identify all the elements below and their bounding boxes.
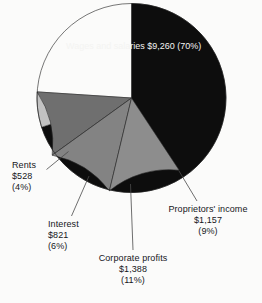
slice-label-proprietors-income: Proprietors' income $1,157 (9%) [156, 204, 260, 237]
leader-line-interest [72, 176, 90, 216]
leader-line-corporate-profits [131, 184, 134, 250]
slice-label-value: $1,157 [156, 215, 260, 226]
slice-label-name: Rents [12, 160, 36, 171]
slice-label-percent: (11%) [78, 275, 188, 286]
slice-label-name: Proprietors' income [156, 204, 260, 215]
slice-label-interest: Interest $821 (6%) [48, 219, 79, 252]
pie-chart-figure: Wages and salaries $9,260 (70%) Rents $5… [0, 0, 262, 303]
slice-label-name: Wages and salaries [66, 41, 145, 51]
slice-label-name: Interest [48, 219, 79, 230]
slice-label-corporate-profits: Corporate profits $1,388 (11%) [78, 253, 188, 286]
slice-label-value: $9,260 [147, 41, 175, 51]
leader-line-proprietors-income [179, 171, 197, 201]
slice-label-name: Corporate profits [78, 253, 188, 264]
slice-label-value: $528 [12, 171, 36, 182]
slice-label-value: $821 [48, 230, 79, 241]
slice-label-rents: Rents $528 (4%) [12, 160, 36, 193]
slice-label-percent: (9%) [156, 226, 260, 237]
slice-label-value: $1,388 [78, 264, 188, 275]
slice-label-percent: (4%) [12, 182, 36, 193]
slice-label-percent: (70%) [177, 41, 201, 51]
slice-label-percent: (6%) [48, 241, 79, 252]
slice-label-wages-and-salaries: Wages and salaries $9,260 (70%) [66, 40, 196, 52]
